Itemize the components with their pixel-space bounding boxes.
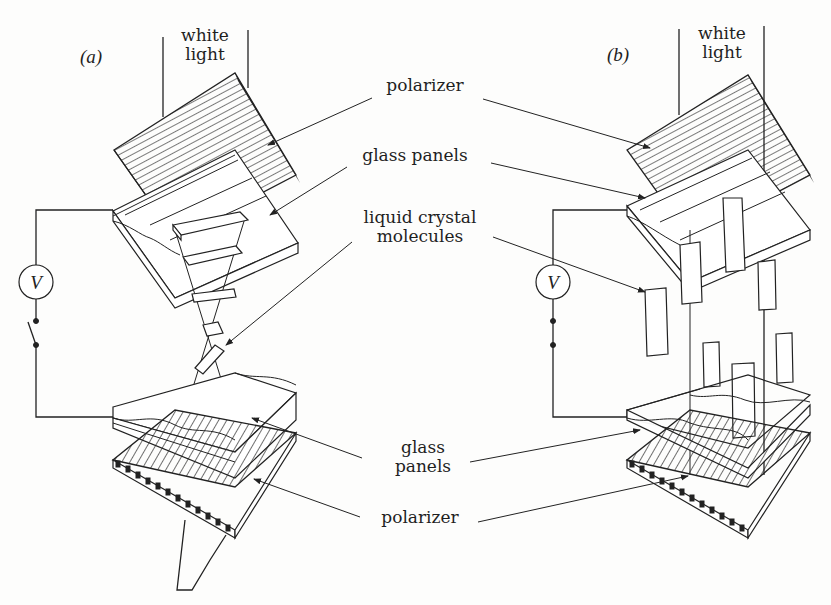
leader-bottom-glass-b [470, 430, 640, 462]
leader-glass-b [491, 163, 645, 198]
molecule-6 [776, 333, 793, 383]
leader-bottom-polarizer-b [478, 476, 688, 522]
diagram-drawing: V [0, 0, 831, 605]
panel-b: V [536, 26, 814, 538]
leader-bottom-polarizer-a [254, 479, 360, 517]
molecule-4 [645, 288, 668, 356]
leader-polarizer-b [483, 99, 650, 148]
exit-light-a [177, 520, 226, 590]
molecule-5 [703, 342, 720, 387]
lcd-diagram: (a) white light (b) white light polarize… [0, 0, 831, 605]
panel-a: V [19, 30, 300, 590]
circuit-a: V [19, 210, 113, 417]
molecule-2 [680, 242, 702, 304]
molecule-4 [203, 322, 223, 336]
leader-lines [226, 98, 688, 522]
molecule-1 [723, 198, 745, 272]
switch-open-a [28, 322, 36, 345]
circuit-b: V [536, 210, 627, 417]
molecule-5 [195, 345, 224, 374]
leader-polarizer-a [268, 98, 372, 145]
molecule-3 [758, 260, 776, 310]
